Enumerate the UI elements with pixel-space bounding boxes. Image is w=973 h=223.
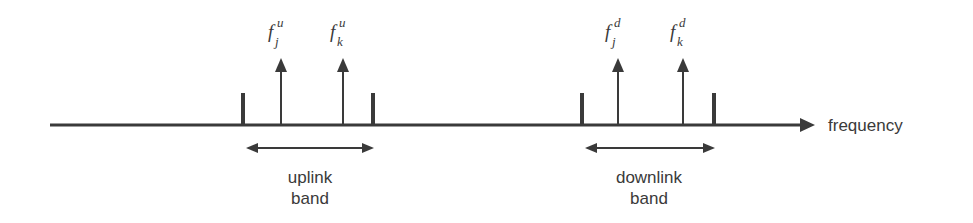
uplink-band-caption-line2: band <box>291 189 329 208</box>
diagram-canvas: frequency f j u f k u <box>0 0 973 223</box>
carrier-f-j-uplink-arrowhead-icon <box>275 58 287 72</box>
carrier-f-k-uplink-arrowhead-icon <box>337 58 349 72</box>
carrier-f-k-downlink-label-superscript: d <box>679 15 686 30</box>
downlink-band-group: f j d f k d downlink band <box>582 15 715 208</box>
carrier-f-k-downlink-label-subscript: k <box>677 34 683 49</box>
frequency-axis-label: frequency <box>828 116 903 135</box>
downlink-band-caption-line2: band <box>630 189 668 208</box>
downlink-band-width-arrowhead-right-icon <box>703 143 715 153</box>
carrier-f-k-downlink-arrowhead-icon <box>677 58 689 72</box>
frequency-axis: frequency <box>50 116 903 135</box>
carrier-f-k-uplink: f k u <box>330 15 349 125</box>
carrier-f-j-downlink: f j d <box>605 15 624 125</box>
uplink-band-width-arrowhead-right-icon <box>362 143 374 153</box>
uplink-band-group: f j u f k u uplink band <box>243 15 374 208</box>
carrier-f-k-uplink-label-superscript: u <box>339 15 346 30</box>
downlink-band-width-arrow <box>585 143 715 153</box>
carrier-f-j-downlink-label-superscript: d <box>614 15 621 30</box>
carrier-f-j-uplink-label-subscript: j <box>273 34 279 49</box>
carrier-f-j-downlink-label-subscript: j <box>610 34 616 49</box>
uplink-band-width-arrow <box>246 143 374 153</box>
carrier-f-j-uplink: f j u <box>268 15 287 125</box>
carrier-f-k-downlink: f k d <box>670 15 689 125</box>
fdd-spectrum-diagram: frequency f j u f k u <box>0 0 973 223</box>
downlink-band-caption-line1: downlink <box>616 168 683 187</box>
carrier-f-j-downlink-arrowhead-icon <box>612 58 624 72</box>
carrier-f-k-uplink-label-subscript: k <box>337 34 343 49</box>
uplink-band-width-arrowhead-left-icon <box>246 143 258 153</box>
axis-arrowhead-icon <box>800 118 815 132</box>
downlink-band-width-arrowhead-left-icon <box>585 143 597 153</box>
uplink-band-caption-line1: uplink <box>288 168 333 187</box>
carrier-f-j-uplink-label-superscript: u <box>277 15 284 30</box>
